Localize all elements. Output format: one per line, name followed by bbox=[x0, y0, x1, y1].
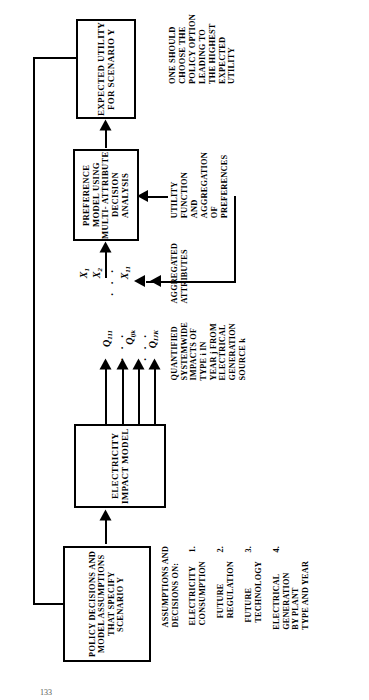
q-line-4 bbox=[154, 365, 156, 425]
arrowhead-feedback-into-aggregation bbox=[150, 275, 161, 287]
assumption-item-2-num: 2. bbox=[216, 546, 226, 553]
arrowhead-x-to-preference-visible bbox=[100, 242, 112, 253]
assumption-item-4-num: 4. bbox=[272, 546, 282, 553]
assumption-item-1-num: 1. bbox=[188, 546, 198, 553]
label-qijk-sub: ijk bbox=[129, 330, 137, 337]
label-x1-base: X bbox=[78, 272, 89, 279]
feedback-vert-right bbox=[234, 196, 236, 282]
label-x1-sub: 1 bbox=[83, 268, 91, 272]
label-qIJK: QIJK bbox=[147, 330, 160, 348]
label-x11-sub: 11 bbox=[124, 266, 132, 273]
connector-policy-to-impact-visible bbox=[105, 516, 107, 544]
box-preference-model-visible: PREFERENCE MODEL USING MULTI- ATTRIBUTE … bbox=[73, 149, 139, 241]
page-number-visible: 133 bbox=[40, 688, 52, 697]
assumption-item-3-num: 3. bbox=[244, 546, 254, 553]
box-electricity-impact-label: ELECTRICITY IMPACT MODEL bbox=[110, 426, 130, 506]
q-line-3 bbox=[138, 365, 140, 425]
arrowhead-preference-to-expected bbox=[100, 120, 112, 131]
label-qIJK-sub: IJK bbox=[152, 330, 160, 341]
note-assumptions-heading: ASSUMPTIONS AND DECISIONS ON: bbox=[161, 546, 180, 627]
note-quantified-impacts: QUANTIFIED SYSTEMWIDE IMPACTS OF TYPE i … bbox=[170, 322, 247, 380]
q-head-1 bbox=[100, 359, 112, 370]
x-ellipsis-visible: . . . bbox=[103, 267, 115, 296]
q-head-3 bbox=[133, 359, 145, 370]
assumption-item-2-text: FUTURE REGULATION bbox=[216, 561, 235, 618]
label-q111: Q111 bbox=[101, 330, 114, 347]
label-x2-sub: 2 bbox=[96, 268, 104, 272]
outer-feedback-left bbox=[33, 57, 35, 605]
arrowhead-aggregated-to-x-visible bbox=[134, 275, 145, 287]
label-q111-base: Q bbox=[101, 340, 112, 347]
note-choose-policy: ONE SHOULD CHOOSE THE POLICY OPTION LEAD… bbox=[168, 14, 237, 84]
outer-feedback-top bbox=[33, 57, 77, 59]
label-qijk: Qijk bbox=[124, 330, 137, 345]
q-line-1 bbox=[105, 365, 107, 425]
q-line-2 bbox=[122, 365, 124, 425]
label-x2-base: X bbox=[91, 272, 102, 279]
q-head-4 bbox=[149, 359, 161, 370]
box-policy-decisions-label-visible: POLICY DECISIONS AND MODEL ASSUMPTIONS T… bbox=[88, 548, 126, 660]
assumption-item-1-text: ELECTRICITY CONSUMPTION bbox=[188, 561, 207, 626]
box-expected-utility: EXPECTED UTILITY FOR SCENARIO Y bbox=[76, 19, 136, 119]
label-q111-sub: 111 bbox=[106, 330, 114, 340]
label-qIJK-base: Q bbox=[147, 341, 158, 348]
box-expected-utility-label: EXPECTED UTILITY FOR SCENARIO Y bbox=[96, 21, 116, 117]
arrowhead-utility-to-preference bbox=[137, 190, 148, 202]
outer-feedback-bottom bbox=[33, 603, 63, 605]
assumption-item-4-text: ELECTRICAL GENERATION BY PLANT TYPE AND … bbox=[272, 561, 311, 630]
box-policy-decisions-visible: POLICY DECISIONS AND MODEL ASSUMPTIONS T… bbox=[63, 546, 151, 662]
note-utility-function: UTILITY FUNCTION AND AGGREGATION OF PREF… bbox=[170, 152, 229, 218]
box-electricity-impact: ELECTRICITY IMPACT MODEL bbox=[74, 424, 166, 508]
connector-preference-to-expected bbox=[105, 126, 107, 148]
q-head-2 bbox=[117, 359, 129, 370]
note-aggregated-attributes: AGGREGATED ATTRIBUTES bbox=[170, 243, 189, 304]
figure-overlay: EXPECTED UTILITY FOR SCENARIO Y ONE SHOU… bbox=[0, 0, 369, 700]
label-x1: X1 bbox=[78, 268, 91, 278]
feedback-horiz-bottom bbox=[160, 281, 236, 283]
assumption-item-3-text: FUTURE TECHNOLOGY bbox=[244, 561, 263, 623]
label-qijk-base: Q bbox=[124, 337, 135, 344]
label-x11: X11 bbox=[119, 266, 132, 279]
connector-x-to-preference-visible bbox=[105, 248, 107, 278]
label-x2: X2 bbox=[91, 268, 104, 278]
q-dots-1: . . . bbox=[113, 332, 125, 361]
connector-utility-to-preference bbox=[146, 196, 168, 198]
arrowhead-policy-to-impact-visible bbox=[100, 510, 112, 521]
box-preference-model-label: PREFERENCE MODEL USING MULTI- ATTRIBUTE … bbox=[82, 151, 130, 239]
label-x11-base: X bbox=[119, 273, 130, 280]
q-dots-2: . . . bbox=[136, 332, 148, 361]
connector-aggregated-to-x-visible bbox=[146, 281, 168, 283]
